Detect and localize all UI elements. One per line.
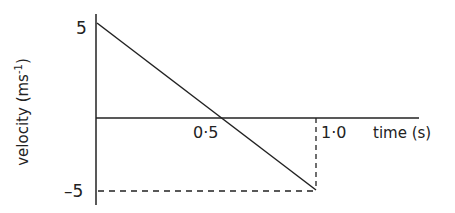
velocity-line (97, 23, 316, 190)
velocity-time-graph: 5 –5 0·5 1·0 time (s) velocity (ms-1) (0, 0, 455, 213)
y-axis-label: velocity (ms-1) (13, 58, 32, 166)
y-tick-neg5: –5 (64, 181, 83, 201)
x-axis-label: time (s) (373, 124, 431, 142)
x-tick-0-5: 0·5 (193, 123, 218, 142)
x-tick-1-0: 1·0 (321, 123, 346, 142)
y-tick-5: 5 (76, 18, 87, 38)
